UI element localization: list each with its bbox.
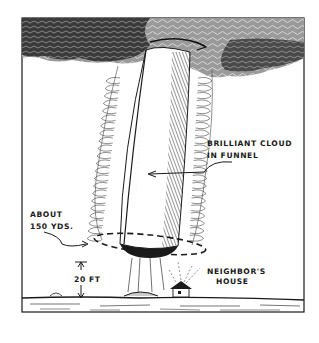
label-neighbors-house-line1: NEIGHBOR'S: [207, 267, 266, 276]
label-about-line2: 150 YDS.: [30, 222, 73, 231]
label-neighbors-house-line2: HOUSE: [216, 277, 249, 286]
label-about-line1: ABOUT: [30, 210, 63, 219]
tornado-illustration: BRILLIANT CLOUD IN FUNNEL ABOUT 150 YDS.…: [0, 0, 319, 343]
label-height: 20 FT: [74, 275, 101, 284]
label-brilliant-cloud-line1: BRILLIANT CLOUD: [207, 139, 292, 148]
label-brilliant-cloud-line2: IN FUNNEL: [207, 151, 258, 160]
